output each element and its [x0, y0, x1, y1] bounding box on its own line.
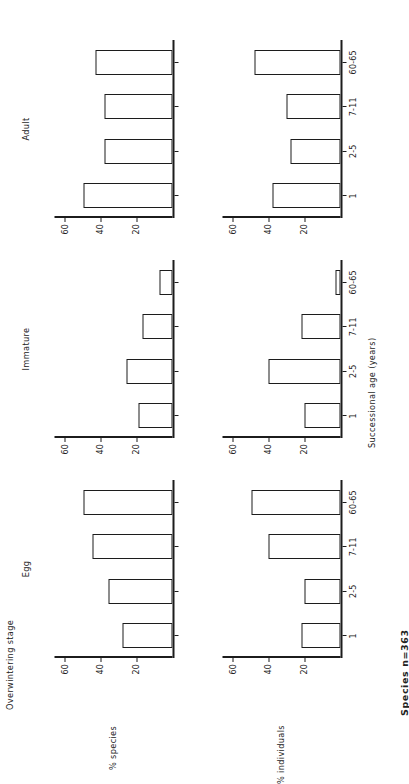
bar-1: [138, 403, 172, 428]
x-axis-tick: [174, 195, 178, 196]
y-axis-tick-label: 20: [299, 224, 308, 246]
bar-2-5: [108, 579, 172, 604]
y-axis-tick: [64, 218, 65, 223]
bar-60-65: [251, 490, 340, 515]
y-axis-tick: [304, 218, 305, 223]
chart-panel-immature-individuals: 20406012-57-1160-65: [222, 260, 340, 438]
x-axis-tick: [174, 546, 178, 547]
chart-panel-immature-species: 204060: [54, 260, 172, 438]
y-axis-tick: [100, 658, 101, 663]
y-axis-tick-label: 60: [60, 444, 69, 466]
y-axis-tick-label: 60: [228, 444, 237, 466]
y-axis-tick: [136, 218, 137, 223]
y-axis-tick-label: 60: [228, 664, 237, 686]
y-axis-tick: [304, 438, 305, 443]
y-axis-tick: [136, 658, 137, 663]
bar-2-5: [290, 139, 340, 164]
y-axis-tick: [64, 658, 65, 663]
bar-60-65: [95, 50, 172, 75]
x-axis-tick-label: 2-5: [348, 127, 357, 175]
y-axis-tick-label: 60: [60, 664, 69, 686]
x-axis-tick: [174, 326, 178, 327]
x-axis-tick: [342, 195, 346, 196]
y-axis-tick-label: 40: [95, 664, 104, 686]
y-axis-tick-label: 20: [299, 444, 308, 466]
x-axis-tick: [174, 415, 178, 416]
x-axis-tick: [174, 151, 178, 152]
x-axis-tick: [342, 591, 346, 592]
x-axis-tick: [174, 502, 178, 503]
y-axis-tick-label: 40: [263, 444, 272, 466]
y-axis-tick-label: 40: [263, 664, 272, 686]
x-axis-tick: [342, 502, 346, 503]
x-axis-tick: [174, 282, 178, 283]
y-axis-line: [222, 656, 340, 658]
bar-7-11: [92, 534, 172, 559]
y-axis-tick-label: 20: [299, 664, 308, 686]
bar-1: [301, 623, 340, 648]
chart-panel-egg-individuals: 20406012-57-1160-65: [222, 480, 340, 658]
x-axis-tick-label: 1: [348, 612, 357, 660]
y-axis-tick: [268, 658, 269, 663]
figure-footnote: Species n=363: [398, 629, 409, 716]
y-axis-tick-label: 20: [131, 664, 140, 686]
chart-panel-adult-individuals: 20406012-57-1160-65: [222, 40, 340, 218]
x-axis-tick: [174, 371, 178, 372]
bar-60-65: [159, 270, 172, 295]
x-axis-tick: [342, 282, 346, 283]
x-axis-tick: [342, 546, 346, 547]
y-axis-tick: [304, 658, 305, 663]
x-axis-tick: [342, 326, 346, 327]
y-axis-line: [54, 656, 172, 658]
bar-1: [122, 623, 172, 648]
y-axis-line: [222, 216, 340, 218]
x-axis-tick: [342, 106, 346, 107]
bar-60-65: [83, 490, 172, 515]
y-axis-tick: [232, 438, 233, 443]
y-axis-tick-label: 40: [95, 444, 104, 466]
y-axis-tick: [64, 438, 65, 443]
y-axis-line: [54, 216, 172, 218]
x-axis-tick-label: 1: [348, 172, 357, 220]
x-axis-tick: [342, 415, 346, 416]
panel-title-immature: Immature: [20, 220, 30, 478]
y-axis-tick-label: 60: [228, 224, 237, 246]
x-axis-tick-label: 60-65: [348, 38, 357, 86]
bar-7-11: [142, 314, 172, 339]
x-axis-tick: [342, 151, 346, 152]
x-axis-tick: [342, 62, 346, 63]
y-axis-title-species: % species: [107, 726, 117, 770]
x-axis-tick: [342, 371, 346, 372]
figure-title: Overwintering stage: [4, 620, 14, 710]
bar-1: [304, 403, 340, 428]
x-axis-tick-label: 2-5: [348, 347, 357, 395]
bar-1: [272, 183, 340, 208]
y-axis-tick: [136, 438, 137, 443]
bar-1: [83, 183, 172, 208]
x-axis-tick-label: 7-11: [348, 523, 357, 571]
y-axis-tick: [268, 218, 269, 223]
y-axis-tick-label: 60: [60, 224, 69, 246]
y-axis-tick: [232, 658, 233, 663]
bar-7-11: [286, 94, 340, 119]
panel-title-egg: Egg: [20, 440, 30, 698]
x-axis-title: Successional age (years): [366, 338, 376, 449]
y-axis-line: [222, 436, 340, 438]
y-axis-tick-label: 40: [95, 224, 104, 246]
x-axis-tick-label: 1: [348, 392, 357, 440]
bar-7-11: [301, 314, 340, 339]
y-axis-title-individuals: % individuals: [275, 725, 285, 784]
x-axis-tick: [174, 635, 178, 636]
x-axis-tick-label: 60-65: [348, 478, 357, 526]
x-axis-tick: [342, 635, 346, 636]
chart-panel-egg-species: 204060: [54, 480, 172, 658]
x-axis-tick: [174, 106, 178, 107]
bar-60-65: [335, 270, 340, 295]
x-axis-tick-label: 2-5: [348, 567, 357, 615]
bar-60-65: [254, 50, 340, 75]
y-axis-tick-label: 20: [131, 224, 140, 246]
y-axis-tick-label: 40: [263, 224, 272, 246]
panel-title-adult: Adult: [20, 0, 30, 258]
